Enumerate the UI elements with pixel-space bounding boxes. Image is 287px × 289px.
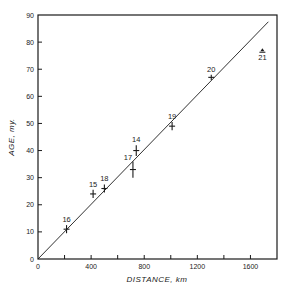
y-axis-ticks: 0102030405060708090 [26, 12, 42, 263]
y-tick-label: 60 [26, 93, 34, 100]
y-tick-label: 70 [26, 66, 34, 73]
y-tick-label: 40 [26, 147, 34, 154]
y-axis-title: AGE, my. [7, 118, 16, 157]
y-tick-label: 50 [26, 120, 34, 127]
data-point-20: 20 [207, 65, 215, 80]
point-label: 20 [207, 65, 215, 74]
age-vs-distance-chart: 040080012001600 0102030405060708090 1615… [0, 0, 287, 289]
y-tick-label: 80 [26, 39, 34, 46]
point-label: 19 [168, 112, 176, 121]
triangle-marker [260, 48, 264, 51]
point-label: 15 [89, 180, 97, 189]
point-label: 14 [132, 135, 140, 144]
x-tick-label: 800 [138, 263, 150, 270]
data-points: 1615181714192021 [62, 48, 266, 233]
point-label: 21 [258, 53, 266, 62]
regression-line [38, 22, 268, 259]
data-point-17: 17 [124, 153, 136, 177]
x-axis-ticks: 040080012001600 [36, 255, 258, 270]
x-axis-title: DISTANCE, km [127, 275, 188, 284]
data-point-21: 21 [258, 48, 266, 62]
data-point-14: 14 [132, 135, 140, 156]
fit-line [38, 22, 268, 259]
point-label: 17 [124, 153, 132, 162]
y-tick-label: 90 [26, 12, 34, 19]
y-tick-label: 30 [26, 174, 34, 181]
x-tick-label: 0 [36, 263, 40, 270]
point-label: 16 [62, 215, 70, 224]
y-tick-label: 10 [26, 228, 34, 235]
y-tick-label: 0 [30, 256, 34, 263]
data-point-16: 16 [62, 215, 70, 233]
y-tick-label: 20 [26, 201, 34, 208]
x-tick-label: 400 [85, 263, 97, 270]
data-point-18: 18 [100, 174, 108, 192]
x-tick-label: 1200 [190, 263, 206, 270]
data-point-15: 15 [89, 180, 97, 198]
point-label: 18 [100, 174, 108, 183]
x-tick-label: 1600 [243, 263, 259, 270]
